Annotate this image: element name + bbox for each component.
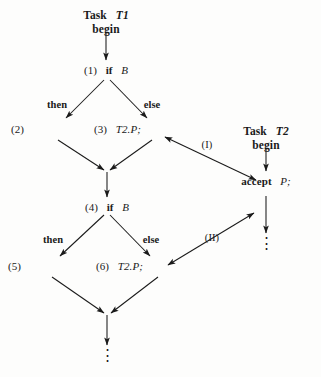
- rendezvous-label-two: (II): [205, 232, 219, 243]
- branch-label-then-lower: then: [43, 234, 63, 245]
- branch-label-else-lower: else: [143, 234, 160, 245]
- edge-n3-merge: [110, 140, 152, 170]
- edge-n2-merge: [58, 140, 104, 170]
- edge-n6-merge: [111, 277, 158, 313]
- node-5: (5): [8, 261, 21, 273]
- node-3-semicolon: ;: [137, 123, 141, 135]
- node-1: (1) if B: [84, 65, 128, 77]
- accept-statement: accept P;: [241, 176, 291, 188]
- node-3-entry-call: T2.P: [116, 123, 138, 135]
- node-6-number: (6): [96, 260, 109, 272]
- task-name-t1: T1: [116, 9, 129, 21]
- node-1-condition: B: [121, 64, 128, 76]
- task-t1-title-line: Task T1: [83, 8, 129, 22]
- node-6-entry-call: T2.P: [118, 260, 140, 272]
- task-t1-begin: begin: [83, 22, 129, 36]
- node-1-keyword: if: [106, 64, 113, 76]
- branch-label-then-upper: then: [47, 99, 67, 110]
- task-t1-header: Task T1 begin: [83, 8, 129, 37]
- node-3-number: (3): [94, 123, 107, 135]
- accept-semicolon: ;: [287, 175, 291, 187]
- branch-label-else-upper: else: [144, 99, 161, 110]
- task-t2-header: Task T2 begin: [243, 124, 289, 153]
- task-t2-title-line: Task T2: [243, 124, 289, 138]
- accept-entry-name: P: [280, 175, 287, 187]
- edge-n5-merge: [52, 277, 104, 313]
- node-6: (6) T2.P;: [96, 261, 143, 273]
- task-keyword-t2: Task: [243, 125, 267, 137]
- edge-n4-then-n5: [60, 215, 104, 256]
- node-4-keyword: if: [107, 201, 114, 213]
- node-4-condition: B: [122, 201, 129, 213]
- task-t1-tail-ellipsis: ⋮: [100, 348, 115, 363]
- task-name-t2: T2: [276, 125, 289, 137]
- task-t2-begin: begin: [243, 138, 289, 152]
- node-2: (2): [11, 124, 24, 136]
- rendezvous-label-one: (I): [202, 139, 213, 150]
- node-1-number: (1): [84, 64, 97, 76]
- node-5-number: (5): [8, 260, 21, 272]
- node-3: (3) T2.P;: [94, 124, 141, 136]
- accept-keyword: accept: [241, 175, 272, 187]
- edge-n1-else-n3: [110, 80, 147, 118]
- task-keyword-t1: Task: [83, 9, 107, 21]
- diagram-edges: [0, 0, 321, 377]
- node-2-number: (2): [11, 123, 24, 135]
- task-rendezvous-diagram: Task T1 begin (1) if B then else (2) (3)…: [0, 0, 321, 377]
- node-6-semicolon: ;: [139, 260, 143, 272]
- node-4: (4) if B: [85, 202, 129, 214]
- edge-n1-then-n2: [66, 80, 104, 118]
- task-t2-tail-ellipsis: ⋮: [259, 236, 274, 251]
- node-4-number: (4): [85, 201, 98, 213]
